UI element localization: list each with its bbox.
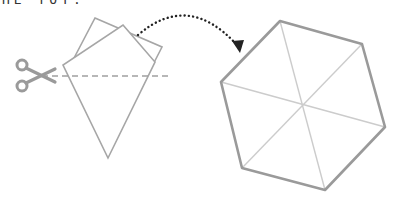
hexagon-diagonals xyxy=(221,21,385,190)
folded-kite-shape xyxy=(63,25,155,158)
dotted-arrow-icon xyxy=(138,16,236,44)
arrowhead-icon xyxy=(232,40,244,53)
folding-diagram xyxy=(0,0,395,198)
scissors-icon xyxy=(17,60,55,91)
